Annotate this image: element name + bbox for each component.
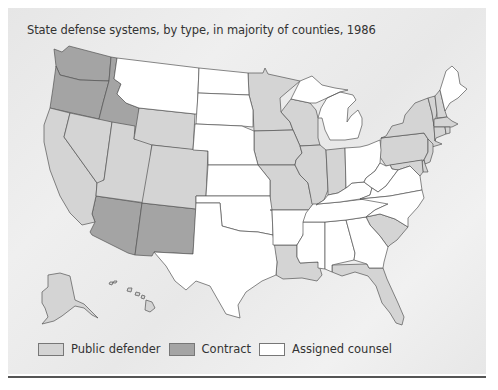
state-florida: [332, 264, 404, 325]
legend-label: Public defender: [71, 342, 161, 356]
state-rhode-island: [445, 127, 450, 134]
state-indiana: [326, 148, 346, 195]
assigned-counsel-swatch-icon: [259, 343, 285, 356]
map-legend: Public defender Contract Assigned counse…: [38, 342, 400, 356]
state-massachusetts: [434, 117, 458, 127]
state-south-dakota: [196, 93, 253, 127]
legend-label: Assigned counsel: [292, 342, 392, 356]
public-defender-swatch-icon: [38, 343, 64, 356]
legend-label: Contract: [202, 342, 251, 356]
state-arizona: [90, 196, 142, 255]
state-new-mexico: [135, 203, 196, 256]
legend-item-assigned-counsel: Assigned counsel: [259, 342, 392, 356]
state-iowa: [254, 130, 302, 165]
state-connecticut: [434, 127, 446, 141]
state-alaska: [42, 273, 98, 324]
legend-item-contract: Contract: [169, 342, 251, 356]
bottom-rule: [8, 376, 486, 378]
contract-swatch-icon: [169, 343, 195, 356]
state-maine: [440, 66, 467, 111]
state-hawaii: [109, 281, 155, 312]
state-north-dakota: [198, 68, 249, 95]
legend-item-public-defender: Public defender: [38, 342, 161, 356]
state-kansas: [206, 165, 270, 196]
us-map: [0, 0, 498, 390]
